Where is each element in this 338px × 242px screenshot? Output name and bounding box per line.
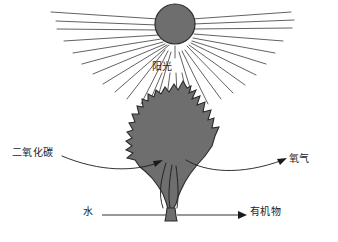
- label-carbon-dioxide: 二氧化碳: [12, 148, 54, 158]
- sun-ray: [194, 28, 292, 29]
- label-water: 水: [83, 207, 93, 217]
- sun-ray: [56, 21, 157, 25]
- leaf-stem: [165, 208, 177, 221]
- sun-ray: [51, 12, 158, 19]
- sun-ray: [192, 12, 291, 19]
- label-oxygen: 氧气: [289, 154, 310, 164]
- leaf-shape: [126, 81, 219, 209]
- label-sunlight: 阳光: [152, 62, 173, 72]
- oxygen-arrowhead: [277, 158, 287, 165]
- sun-ray: [64, 35, 159, 41]
- label-organic-matter: 有机物: [250, 207, 281, 217]
- diagram-canvas: [0, 0, 338, 242]
- sun-ray: [185, 50, 221, 99]
- sun-ray: [194, 34, 283, 41]
- sun-icon: [155, 4, 195, 44]
- sun-ray: [57, 29, 157, 30]
- sun-ray: [193, 20, 294, 24]
- photosynthesis-diagram: 阳光 二氧化碳 氧气 水 有机物: [0, 0, 338, 242]
- organic-matter-arrowhead: [238, 211, 247, 219]
- sun-ray: [187, 46, 233, 93]
- sun-ray: [189, 45, 245, 85]
